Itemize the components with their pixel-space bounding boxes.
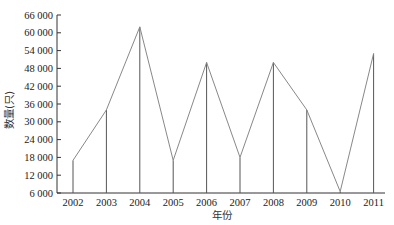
y-tick-label: 48 000 (24, 63, 53, 74)
y-axis-title: 数量(只) (3, 91, 15, 129)
y-tick-label: 18 000 (24, 152, 53, 163)
y-tick-label: 54 000 (24, 45, 53, 56)
x-tick-label: 2004 (129, 197, 151, 208)
x-axis: 2002200320042005200620072008200920102011 (57, 193, 385, 208)
x-tick-label: 2007 (230, 197, 251, 208)
x-tick-label: 2002 (63, 197, 84, 208)
y-tick-label: 60 000 (24, 27, 53, 38)
x-tick-label: 2006 (196, 197, 217, 208)
y-tick-label: 42 000 (24, 81, 53, 92)
y-tick-label: 30 000 (24, 116, 53, 127)
line-chart: 6 00012 00018 00024 00030 00036 00042 00… (0, 0, 394, 225)
y-tick-label: 12 000 (24, 170, 53, 181)
x-tick-label: 2010 (330, 197, 351, 208)
y-axis: 6 00012 00018 00024 00030 00036 00042 00… (24, 10, 61, 199)
y-tick-label: 6 000 (29, 188, 53, 199)
y-tick-label: 66 000 (24, 10, 53, 21)
x-tick-label: 2005 (163, 197, 184, 208)
x-tick-label: 2009 (296, 197, 317, 208)
x-tick-label: 2003 (96, 197, 117, 208)
y-tick-label: 24 000 (24, 134, 53, 145)
y-tick-label: 36 000 (24, 99, 53, 110)
x-tick-label: 2011 (363, 197, 384, 208)
x-tick-label: 2008 (263, 197, 284, 208)
data-series-line (73, 27, 374, 192)
x-axis-title: 年份 (212, 209, 233, 221)
